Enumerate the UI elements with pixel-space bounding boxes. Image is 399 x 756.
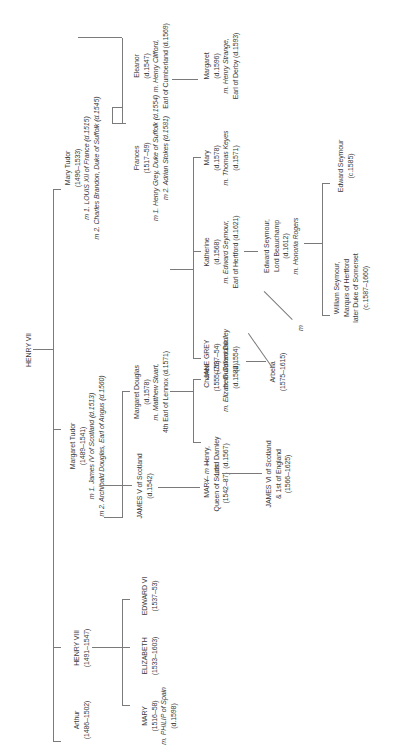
connector (53, 429, 61, 430)
connector (104, 517, 122, 518)
connector (122, 66, 123, 78)
node-elizabeth: ELIZABETH (1533–1603) (140, 637, 159, 676)
connector (53, 647, 61, 648)
connector (53, 189, 61, 190)
connector (122, 392, 123, 518)
node-mary-tudor: Mary Tudor (1496–1533) m 1. LOUIS XII of… (63, 97, 101, 240)
node-frances: Frances (1517–59) m 1. Henry Grey, Duke … (132, 95, 170, 221)
node-charles: Charles (1555–76) m. Elizabeth Cavendish… (202, 340, 240, 411)
family-tree-diagram: HENRY VII Mary Tudor (1496–1533) m 1. LO… (0, 0, 399, 756)
connector (178, 79, 198, 80)
connector (158, 487, 200, 488)
connector (33, 349, 53, 350)
connector (112, 123, 122, 124)
connector (112, 107, 122, 108)
connector (322, 184, 323, 316)
node-henry-vii: HENRY VII (24, 333, 34, 367)
connector (246, 361, 266, 362)
connector (170, 391, 193, 392)
connector (170, 269, 193, 270)
connector (122, 599, 130, 600)
connector (193, 379, 201, 380)
node-katherine: Katherine (d.1568) m. Edward Seymour, Ea… (202, 216, 240, 289)
connector (122, 647, 130, 648)
node-edward-vi: EDWARD VI (1537–53) (140, 577, 159, 616)
connector (322, 183, 330, 184)
connector (122, 600, 123, 706)
node-mary-keyes: Mary (d.1578) m. Thomas Keyes (d.1571) (202, 131, 240, 186)
connector (193, 380, 194, 443)
marriage-marker: — m — (203, 459, 210, 483)
connector (122, 123, 126, 124)
marriage-line (248, 333, 273, 368)
marriage-marker: m (297, 325, 304, 331)
connector (92, 647, 122, 648)
connector (304, 243, 322, 244)
connector (122, 391, 130, 392)
connector (112, 108, 113, 124)
connector (244, 251, 258, 252)
connector (78, 37, 122, 38)
connector (53, 190, 54, 742)
node-margaret-strange: Margaret (d.1596) m. Henry Strange, Earl… (202, 33, 240, 100)
connector (193, 251, 201, 252)
node-margaret-tudor: Margaret Tudor (1489–1541) m 1. James IV… (68, 375, 106, 516)
connector (104, 485, 132, 486)
connector (193, 358, 201, 359)
node-margaret-douglas: Margaret Douglas (d.1578) m. Matthew Stu… (132, 351, 170, 433)
node-edward-seymour-1585: Edward Seymour (c.1585) (336, 140, 355, 192)
connector (193, 442, 201, 443)
marriage-line (264, 291, 293, 320)
node-henry-viii: HENRY VIII (1491–1547) (72, 629, 91, 668)
connector (122, 38, 123, 124)
node-william-seymour: William Seymour, Marquis of Hertford lat… (332, 253, 370, 322)
connector (222, 473, 262, 474)
connector (193, 157, 201, 158)
node-arbella: Arbella (1575–1615) (268, 353, 287, 392)
node-james-v: JAMES V of Scotland (d.1542) (135, 453, 154, 518)
node-james-vi: JAMES VI of Scotland & 1st of England (1… (264, 441, 293, 508)
connector (322, 315, 330, 316)
connector (53, 741, 61, 742)
node-mary-i: MARY (1516–58) m. PHILIP of Spain (d.159… (140, 687, 178, 744)
node-arthur: Arthur (1486–1502) (72, 701, 91, 740)
connector (122, 705, 130, 706)
node-edward-seymour-beauchamp: Edward Seymour, Lord Beauchamp (d.1612) … (262, 217, 300, 274)
connector (193, 158, 194, 359)
